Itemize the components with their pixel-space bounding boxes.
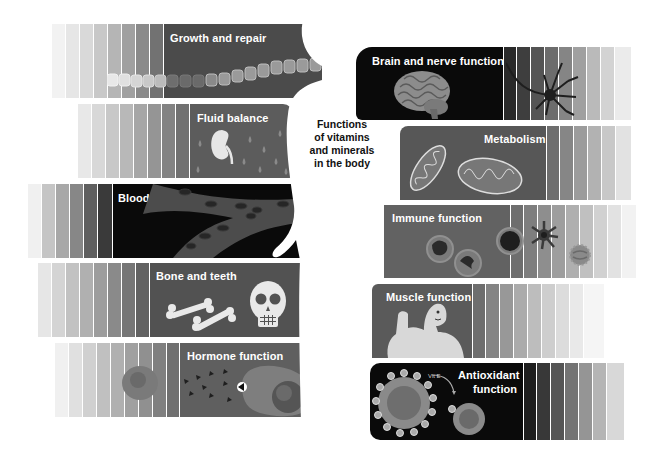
neuron-icon [506,53,586,117]
panel-muscle-function: Muscle function [372,284,472,358]
immune-cells-icon [420,205,620,278]
muscle-man-icon [380,302,470,358]
mitochondria-icon [406,136,536,198]
row-immune-function: Immune function [384,205,637,278]
diagram-title: Functions of vitamins and minerals in th… [282,118,402,170]
label-brain-and-nerve-function: Brain and nerve function [372,55,503,67]
title-line-1: Functions [282,118,402,131]
fade-stripes [472,284,605,358]
title-line-3: and minerals [282,144,402,157]
panel-metabolism: Metabolism [400,126,546,200]
title-line-2: of vitamins [282,131,402,144]
row-antioxidant-function: Antioxidant function Vit E [370,363,625,440]
fade-stripes [546,126,632,200]
row-brain-and-nerve-function: Brain and nerve function [356,47,632,120]
brain-icon [392,69,456,119]
row-muscle-function: Muscle function [372,284,605,358]
antioxidant-cell-icon: Vit E [372,365,492,440]
svg-text:Vit E: Vit E [428,373,441,379]
row-metabolism: Metabolism [400,126,632,200]
panel-antioxidant-function: Antioxidant function Vit E [370,363,523,440]
fade-stripes [523,363,625,440]
panel-brain-and-nerve-function: Brain and nerve function [356,47,503,120]
title-line-4: in the body [282,157,402,170]
